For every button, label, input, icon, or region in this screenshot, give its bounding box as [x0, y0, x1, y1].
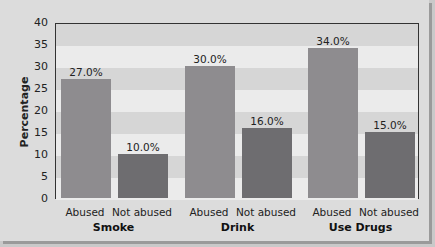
bar-value-label: 34.0% — [303, 35, 363, 47]
y-tick-label: 40 — [26, 17, 48, 29]
bar-value-label: 27.0% — [56, 66, 116, 78]
bar-value-label: 15.0% — [360, 119, 420, 131]
bar-use-drugs-not-abused — [365, 132, 415, 198]
bar-value-label: 30.0% — [180, 53, 240, 65]
group-label: Smoke — [64, 221, 164, 234]
bar-drink-abused — [185, 66, 235, 198]
x-tick-label: Not abused — [354, 206, 424, 218]
bar-smoke-not-abused — [118, 154, 168, 198]
x-tick-label: Not abused — [107, 206, 177, 218]
plot-area: 27.0%10.0%30.0%16.0%34.0%15.0% — [55, 23, 419, 199]
y-tick-label: 0 — [26, 193, 48, 205]
y-tick-label: 35 — [26, 39, 48, 51]
bar-smoke-abused — [61, 79, 111, 198]
y-tick-label: 5 — [26, 171, 48, 183]
bar-use-drugs-abused — [308, 48, 358, 198]
y-tick-label: 20 — [26, 105, 48, 117]
bar-value-label: 16.0% — [237, 115, 297, 127]
grid-band — [56, 24, 418, 46]
group-label: Use Drugs — [311, 221, 411, 234]
y-tick-label: 30 — [26, 61, 48, 73]
x-tick-label: Not abused — [231, 206, 301, 218]
y-tick-label: 25 — [26, 83, 48, 95]
chart-frame: Percentage 0510152025303540 27.0%10.0%30… — [0, 0, 429, 241]
bar-value-label: 10.0% — [113, 141, 173, 153]
group-label: Drink — [188, 221, 288, 234]
y-tick-label: 15 — [26, 127, 48, 139]
y-tick-label: 10 — [26, 149, 48, 161]
bar-drink-not-abused — [242, 128, 292, 198]
